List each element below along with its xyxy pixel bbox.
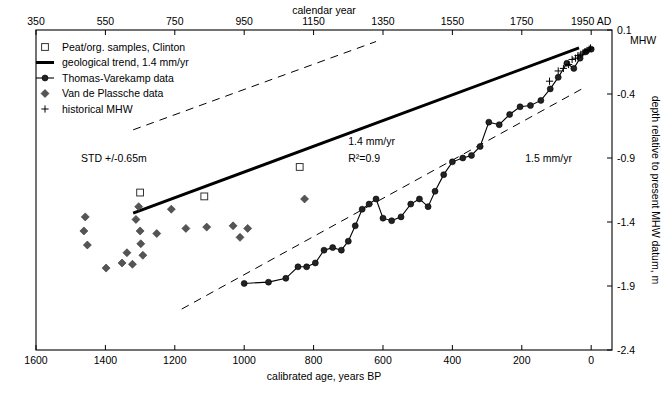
data-point-thomas-varekamp <box>507 111 513 117</box>
x-ticklabel-top: 1150 <box>302 15 325 27</box>
sea-level-chart: 1600140012001000800600400200035055075095… <box>0 0 664 400</box>
chart-annotation: R²=0.9 <box>348 152 380 164</box>
data-point-vandeplassche <box>182 224 190 232</box>
x-ticklabel-bottom: 800 <box>305 354 323 366</box>
y-ticklabel: -2.4 <box>617 344 635 356</box>
y-ticklabel: -1.4 <box>617 216 635 228</box>
data-point-thomas-varekamp <box>416 196 422 202</box>
data-point-thomas-varekamp <box>389 218 395 224</box>
y-ticklabel: -0.4 <box>617 88 635 100</box>
data-point-thomas-varekamp <box>547 86 553 92</box>
x-ticklabel-top: 550 <box>97 15 115 27</box>
data-point-vandeplassche <box>83 241 91 249</box>
y-ticklabel: -1.9 <box>617 280 635 292</box>
data-point-thomas-varekamp <box>398 214 404 220</box>
data-point-thomas-varekamp <box>359 206 365 212</box>
data-point-vandeplassche <box>203 223 211 231</box>
data-point-thomas-varekamp <box>538 97 544 103</box>
data-point-vandeplassche <box>301 195 309 203</box>
legend-label: Thomas-Varekamp data <box>62 72 174 84</box>
data-point-vandeplassche <box>132 215 140 223</box>
chart-annotation: 1.5 mm/yr <box>525 152 572 164</box>
data-point-thomas-varekamp <box>265 279 271 285</box>
x-ticklabel-bottom: 1000 <box>233 354 257 366</box>
data-point-thomas-varekamp <box>312 260 318 266</box>
data-point-thomas-varekamp <box>241 280 247 286</box>
x-axis-title: calibrated age, years BP <box>267 370 381 382</box>
data-point-vandeplassche <box>118 259 126 267</box>
x-ticklabel-bottom: 1200 <box>163 354 187 366</box>
data-point-thomas-varekamp <box>345 238 351 244</box>
data-point-vandeplassche <box>80 227 88 235</box>
data-point-thomas-varekamp <box>468 152 474 158</box>
legend-marker-open-square <box>42 44 49 51</box>
legend-label: geological trend, 1.4 mm/yr <box>62 56 189 68</box>
x-ticklabel-top: 1350 <box>371 15 395 27</box>
x-ticklabel-top: 1550 <box>441 15 465 27</box>
data-point-thomas-varekamp <box>366 201 372 207</box>
data-point-thomas-varekamp <box>486 119 492 125</box>
x-ticklabel-bottom: 0 <box>588 354 594 366</box>
data-point-vandeplassche <box>102 264 110 272</box>
data-point-vandeplassche <box>139 251 147 259</box>
data-point-vandeplassche <box>137 240 145 248</box>
data-point-thomas-varekamp <box>555 74 561 80</box>
data-point-vandeplassche <box>153 230 161 238</box>
trend-line <box>133 48 579 213</box>
data-point-vandeplassche <box>81 213 89 221</box>
data-point-thomas-varekamp <box>338 247 344 253</box>
data-point-thomas-varekamp <box>517 104 523 110</box>
y-axis-title: depth relative to present MHW datum, m <box>650 96 662 285</box>
data-point-peat <box>201 193 208 200</box>
legend-label: Peat/org. samples, Clinton <box>62 41 185 53</box>
data-point-thomas-varekamp <box>373 196 379 202</box>
data-point-thomas-varekamp <box>352 223 358 229</box>
legend-label: historical MHW <box>62 103 133 115</box>
data-point-thomas-varekamp <box>408 201 414 207</box>
x-ticklabel-bottom: 600 <box>374 354 392 366</box>
data-point-thomas-varekamp <box>425 204 431 210</box>
data-point-thomas-varekamp <box>477 143 483 149</box>
data-point-vandeplassche <box>128 260 136 268</box>
data-point-thomas-varekamp <box>449 159 455 165</box>
x-top-axis-title: calendar year <box>292 4 356 16</box>
data-point-vandeplassche <box>136 227 144 235</box>
trend-line <box>133 42 376 130</box>
x-ticklabel-bottom: 1600 <box>24 354 48 366</box>
data-point-thomas-varekamp <box>304 264 310 270</box>
data-point-thomas-varekamp <box>527 103 533 109</box>
legend-marker-diamond <box>41 90 49 98</box>
x-ticklabel-bottom: 400 <box>444 354 462 366</box>
x-ticklabel-top: 950 <box>235 15 253 27</box>
x-ticklabel-bottom: 200 <box>513 354 531 366</box>
data-point-peat <box>137 189 144 196</box>
data-point-thomas-varekamp <box>330 245 336 251</box>
legend-label: Van de Plassche data <box>62 87 164 99</box>
chart-annotation: STD +/-0.65m <box>81 152 147 164</box>
data-point-vandeplassche <box>167 205 175 213</box>
x-ticklabel-top: 750 <box>166 15 184 27</box>
y-ticklabel: -0.9 <box>617 152 635 164</box>
x-ticklabel-top: 1950 AD <box>571 15 612 27</box>
x-ticklabel-top: 1750 <box>510 15 534 27</box>
data-point-thomas-varekamp <box>321 247 327 253</box>
data-point-vandeplassche <box>236 233 244 241</box>
data-point-thomas-varekamp <box>283 275 289 281</box>
data-point-thomas-varekamp <box>441 172 447 178</box>
data-point-thomas-varekamp <box>295 264 301 270</box>
data-point-vandeplassche <box>123 249 131 257</box>
data-point-thomas-varekamp <box>496 122 502 128</box>
mhw-note: MHW <box>630 34 656 46</box>
legend-marker-circle <box>42 75 48 81</box>
x-ticklabel-bottom: 1400 <box>94 354 118 366</box>
data-point-thomas-varekamp <box>460 155 466 161</box>
data-point-vandeplassche <box>244 224 252 232</box>
data-point-thomas-varekamp <box>571 65 577 71</box>
chart-annotation: 1.4 mm/yr <box>348 135 395 147</box>
chart-canvas: 1600140012001000800600400200035055075095… <box>0 0 664 400</box>
chart-root: 1600140012001000800600400200035055075095… <box>0 0 664 400</box>
data-point-peat <box>296 164 303 171</box>
data-point-thomas-varekamp <box>380 215 386 221</box>
data-point-vandeplassche <box>229 222 237 230</box>
data-point-thomas-varekamp <box>432 188 438 194</box>
